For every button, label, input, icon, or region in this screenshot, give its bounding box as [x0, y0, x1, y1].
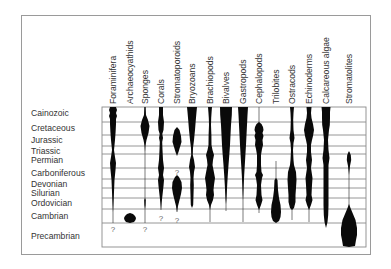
taxon-labels: ForaminiferaArchaeocyathidsSpongesCorals…	[108, 37, 354, 104]
taxon-label: Trilobites	[271, 69, 281, 104]
uncertainty-marker: ?	[175, 168, 180, 177]
spindle-echinoderms	[304, 107, 314, 210]
spindle-stromatoporoids	[172, 175, 182, 212]
taxon-label: Corals	[156, 79, 166, 104]
period-label: Permian	[31, 155, 63, 165]
period-labels: CainozoicCretaceousJurassicTriassicPermi…	[31, 108, 85, 241]
spindle-corals	[158, 107, 164, 210]
spindle-bivalves	[220, 107, 232, 204]
taxon-label: Bivalves	[221, 72, 231, 104]
spindle-archaeocyathids	[124, 213, 136, 223]
spindle-stromatoporoids	[173, 127, 182, 156]
uncertainty-marker: ?	[175, 216, 180, 225]
taxon-label: Archaeocyathids	[125, 40, 135, 104]
spindle-sponges	[141, 107, 150, 152]
taxon-label: Echinoderms	[304, 54, 314, 104]
period-label: Carboniferous	[31, 168, 85, 178]
taxon-label: Gastropods	[238, 60, 248, 104]
spindle-cephalopods	[255, 122, 264, 210]
spindle-trilobites	[271, 178, 281, 223]
period-label: Jurassic	[31, 135, 63, 145]
uncertainty-marker: ?	[143, 225, 148, 234]
spindle-stromatolites	[341, 204, 357, 247]
taxon-label: Sponges	[140, 70, 150, 104]
taxon-label: Cephalopods	[254, 53, 264, 104]
taxon-label: Foraminifera	[108, 56, 118, 104]
taxon-label: Bryozoans	[187, 63, 197, 104]
period-label: Precambrian	[31, 231, 80, 241]
spindle-foraminifera	[109, 107, 117, 212]
uncertainty-marker: ?	[111, 225, 116, 234]
period-label: Cainozoic	[31, 108, 69, 118]
taxon-label: Stromatolites	[344, 54, 354, 104]
taxon-label: Ostracods	[287, 65, 297, 104]
spindle-bryozoans	[187, 107, 197, 208]
fossil-range-chart: ????? CainozoicCretaceousJurassicTriassi…	[0, 0, 391, 269]
uncertainty-marker: ?	[159, 214, 164, 223]
period-label: Cambrian	[31, 211, 68, 221]
spindle-stromatolites	[347, 151, 351, 175]
taxon-label: Brachiopods	[205, 56, 215, 104]
period-label: Silurian	[31, 188, 60, 198]
spindle-gastropods	[238, 107, 248, 200]
spindle-sponges	[144, 198, 146, 209]
period-label: Cretaceous	[31, 123, 75, 133]
taxon-label: Stromatoporoids	[172, 41, 182, 104]
period-label: Ordovician	[31, 198, 72, 208]
taxon-label: Calcareous algae	[321, 37, 331, 104]
spindle-calcareous-algae	[322, 107, 331, 228]
